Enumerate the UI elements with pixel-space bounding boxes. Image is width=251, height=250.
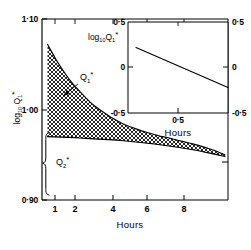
inset-ytick-left-0: 0·5 [113, 17, 125, 27]
chart-svg: 1·10 1·00 0·90 1 2 4 6 8 Hours log10 Q1*… [0, 0, 251, 250]
inset-background [128, 22, 228, 113]
inset-label-log: log [88, 32, 100, 42]
inset-label-star: * [115, 30, 118, 39]
main-xtick-label-0: 1 [52, 204, 57, 214]
inset-ytick-right-1: 0 [232, 62, 237, 72]
inset-xtick-label-0: 0·5 [172, 115, 184, 125]
main-ylabel-log: log [12, 113, 22, 125]
q2-label-star: * [66, 155, 69, 164]
main-ytick-label-2: 0·90 [22, 195, 39, 205]
main-xtick-label-1: 2 [72, 204, 77, 214]
q1-label-star: * [90, 70, 93, 79]
inset-ytick-right-2: -0·5 [232, 108, 247, 118]
inset-xaxis-title: Hours [165, 127, 192, 138]
main-xtick-label-3: 6 [144, 204, 149, 214]
main-ytick-label-1: 1·00 [22, 105, 39, 115]
q1-label-q: Q [80, 72, 87, 82]
main-xtick-label-4: 8 [181, 204, 186, 214]
inset-ytick-left-1: 0 [120, 62, 125, 72]
figure-container: 1·10 1·00 0·90 1 2 4 6 8 Hours log10 Q1*… [0, 0, 251, 250]
main-ytick-label-0: 1·10 [22, 14, 39, 24]
inset-ytick-right-0: 0·5 [232, 17, 244, 27]
main-xtick-label-2: 4 [110, 204, 115, 214]
main-xaxis-title: Hours [117, 219, 144, 230]
q2-label-q: Q [56, 157, 63, 167]
inset-ytick-left-2: -0·5 [111, 108, 126, 118]
main-ylabel-star: * [10, 92, 19, 95]
